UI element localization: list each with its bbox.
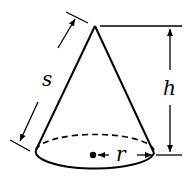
- cone-diagram: r h s: [0, 0, 195, 181]
- slant-label: s: [42, 67, 52, 91]
- height-label: h: [163, 76, 176, 100]
- cone-body: [36, 26, 154, 169]
- base-back-dashed: [36, 134, 154, 153]
- radius-label: r: [116, 142, 127, 166]
